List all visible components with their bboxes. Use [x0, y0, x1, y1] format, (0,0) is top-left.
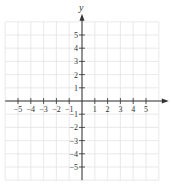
y-tick-label: −1 [69, 110, 78, 119]
y-axis-label: y [78, 2, 84, 13]
y-axis-arrow-icon [80, 14, 85, 21]
y-tick-label: −3 [69, 137, 78, 146]
coordinate-plane: −5−4−3−2−11234554321−1−2−3−4−5 x y [0, 0, 171, 190]
y-tick-label: −5 [69, 163, 78, 172]
y-tick-label: −2 [69, 123, 78, 132]
y-tick-label: 1 [74, 84, 78, 93]
y-tick-label: 4 [74, 44, 78, 53]
x-tick-label: 4 [131, 105, 135, 114]
x-tick-label: −4 [27, 105, 36, 114]
y-tick-label: −4 [69, 150, 78, 159]
x-tick-label: 1 [93, 105, 97, 114]
y-tick-label: 5 [74, 31, 78, 40]
y-tick-label: 3 [74, 57, 78, 66]
x-tick-label: −2 [52, 105, 61, 114]
axes [5, 14, 169, 180]
x-tick-label: 3 [118, 105, 122, 114]
x-tick-label: 5 [144, 105, 148, 114]
x-axis-arrow-icon [162, 99, 169, 104]
x-tick-label: 2 [106, 105, 110, 114]
x-tick-label: −5 [14, 105, 23, 114]
y-tick-label: 2 [74, 71, 78, 80]
x-tick-label: −3 [39, 105, 48, 114]
